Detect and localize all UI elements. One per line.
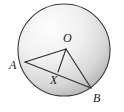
figure-canvas: O A B X — [0, 0, 124, 112]
geometry-figure: O A B X — [0, 0, 124, 112]
point-label-O: O — [63, 31, 72, 45]
point-label-B: B — [93, 91, 101, 105]
point-label-A: A — [8, 58, 17, 72]
point-label-X: X — [49, 73, 58, 87]
